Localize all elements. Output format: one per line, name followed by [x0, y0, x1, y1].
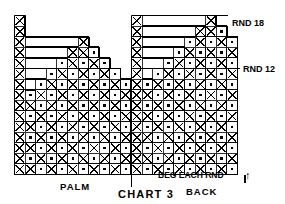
label-rnd-18: RND 18 — [232, 18, 264, 28]
page-title: CHART 3 — [118, 188, 174, 200]
label-palm: PALM — [60, 181, 90, 192]
chart-figure: RND 18 RND 12 BEG EACH RND ↑ PALM BACK C… — [0, 0, 285, 204]
stitch-chart-canvas: RND 18 RND 12 BEG EACH RND ↑ PALM BACK C… — [0, 0, 285, 204]
arrow-up-icon: ↑ — [245, 169, 251, 181]
label-rnd-12: RND 12 — [243, 64, 275, 74]
label-beg-each-rnd: BEG EACH RND — [158, 170, 224, 180]
label-back: BACK — [186, 186, 217, 197]
